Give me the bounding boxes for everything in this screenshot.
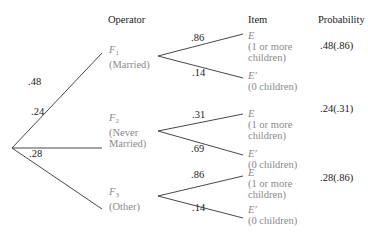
operator-f1-desc: (Married) [109,59,150,70]
item-f1-e: E (1 or more children) [248,30,292,63]
item-f3-eprime: E′ (0 children) [248,204,297,226]
item-f3-eprime-line1: (0 children) [248,215,297,226]
branch-root-f3 [12,148,102,209]
result-f3: .28(.86) [320,172,353,183]
operator-f1-sub: 1 [115,49,119,57]
prob-f2-eprime: .69 [191,143,204,154]
tree-diagram-lines [0,0,368,235]
item-f2-e-symbol: E [248,108,254,119]
result-f2: .24(.31) [320,103,353,114]
item-f1-e-line1: (1 or more [248,41,292,52]
item-f2-eprime-symbol: E′ [248,148,257,159]
prob-f1-e: .86 [191,32,204,43]
item-f3-e: E (1 or more children) [248,167,292,200]
branch-root-f1 [12,53,102,148]
probability-header: Probability [318,14,365,25]
item-f1-eprime-symbol: E′ [248,70,257,81]
operator-f3-sub: 3 [115,191,119,199]
item-header: Item [248,14,267,25]
item-f1-e-line2: children) [248,52,286,63]
item-f1-eprime: E′ (0 children) [248,70,297,92]
prob-f1-eprime: .14 [192,67,205,78]
prob-f3-eprime: .14 [192,202,205,213]
item-f2-e-line1: (1 or more [248,119,292,130]
item-f2-e: E (1 or more children) [248,108,292,141]
item-f3-e-line2: children) [248,189,286,200]
operator-header: Operator [108,14,145,25]
item-f1-eprime-line1: (0 children) [248,81,297,92]
item-f3-e-line1: (1 or more [248,178,292,189]
prob-root-f1: .48 [28,76,41,87]
operator-f2-desc-line2: Married) [109,138,146,149]
prob-f2-e: .31 [192,109,205,120]
operator-f2-desc-line1: (Never [109,127,138,138]
operator-f3-desc: (Other) [109,201,140,212]
item-f3-eprime-symbol: E′ [248,204,257,215]
operator-f1: F1 (Married) [109,44,150,70]
prob-f3-e: .86 [191,169,204,180]
operator-f2: F2 (Never Married) [109,112,146,149]
item-f1-e-symbol: E [248,30,254,41]
operator-f3: F3 (Other) [109,186,140,212]
prob-root-f2: .24 [31,106,44,117]
result-f1: .48(.86) [320,40,353,51]
operator-f2-sub: 2 [115,117,119,125]
item-f3-e-symbol: E [248,167,254,178]
prob-root-f3: .28 [29,148,42,159]
item-f2-e-line2: children) [248,130,286,141]
